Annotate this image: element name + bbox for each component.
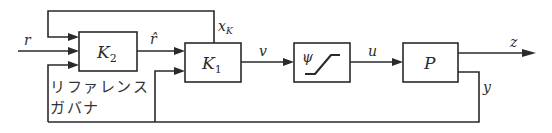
r-label: r — [24, 32, 32, 48]
plant-label: P — [423, 53, 436, 73]
reference-governor-label-line1: リファレンス — [50, 78, 149, 96]
y-feedback-to-k1-wire — [155, 71, 178, 122]
arrow-rhat-into-k1 — [174, 47, 185, 55]
arrow-v-into-saturation — [283, 58, 294, 66]
xk-label: xK — [218, 18, 234, 36]
arrow-r-into-k2 — [68, 47, 79, 55]
saturation-label: ψ — [302, 49, 314, 65]
reference-governor-block-diagram: K2 r̂ K1 xK v ψ u P z y リファレンス ガバナ r — [0, 0, 552, 133]
u-label: u — [368, 43, 377, 59]
rhat-label: r̂ — [150, 31, 158, 47]
arrow-u-into-plant — [392, 58, 403, 66]
reference-governor-label-line2: ガバナ — [50, 99, 100, 117]
arrow-y-into-k2 — [68, 61, 79, 69]
z-label: z — [509, 34, 518, 50]
arrow-z-output — [522, 49, 536, 57]
v-label: v — [259, 43, 267, 59]
arrow-xk-into-k2 — [68, 33, 79, 41]
arrow-y-into-k1 — [174, 67, 185, 75]
y-label: y — [482, 79, 492, 95]
